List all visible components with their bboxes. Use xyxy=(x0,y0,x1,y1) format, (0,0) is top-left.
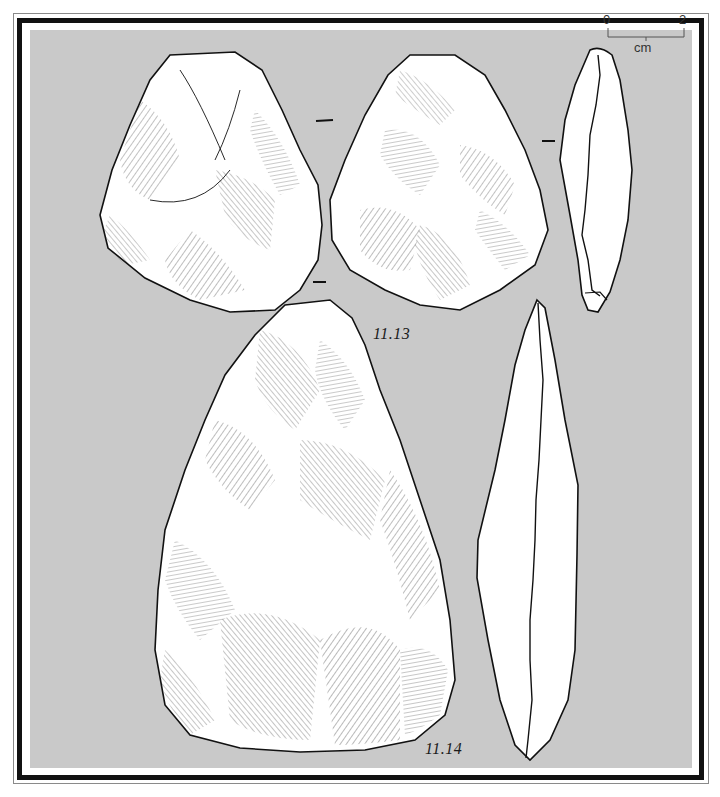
scale-start-label: 0 xyxy=(603,12,610,27)
artifact-label-11-13: 11.13 xyxy=(373,325,410,343)
handaxe-11-14-profile xyxy=(477,300,578,760)
illustration-canvas xyxy=(0,0,720,797)
scale-unit-label: cm xyxy=(634,40,651,55)
handaxe-11-13-dorsal xyxy=(100,52,322,312)
orientation-tick xyxy=(316,120,333,121)
handaxe-11-13-profile xyxy=(560,48,632,312)
artifact-label-11-14: 11.14 xyxy=(425,740,462,758)
handaxe-11-14-face xyxy=(155,300,455,752)
scale-end-label: 2 xyxy=(679,12,686,27)
handaxe-11-13-ventral xyxy=(330,55,548,310)
